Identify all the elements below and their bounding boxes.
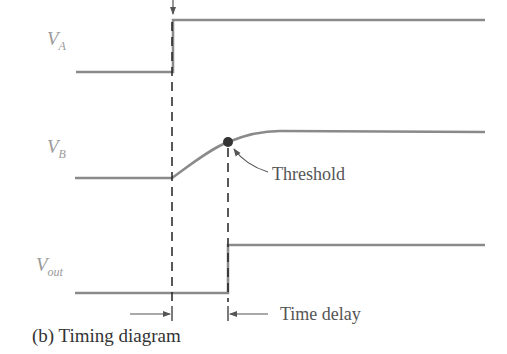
signal-vb-label-sub: B [59, 147, 66, 161]
signal-vout-label: Vout [36, 254, 63, 280]
timing-diagram-graphics [0, 0, 507, 354]
signal-vout-label-sub: out [48, 265, 63, 279]
signal-va-label: VA [47, 28, 66, 54]
signal-va-label-sub: A [59, 39, 66, 53]
signal-vb-label-main: V [47, 136, 59, 157]
signal-va-label-main: V [47, 28, 59, 49]
threshold-label: Threshold [272, 164, 345, 185]
signal-va-waveform [76, 20, 485, 72]
threshold-pointer-arrow [234, 149, 268, 172]
signal-vout-label-main: V [36, 254, 48, 275]
time-delay-label: Time delay [280, 304, 361, 325]
signal-vb-label: VB [47, 136, 66, 162]
figure-caption: (b) Timing diagram [32, 325, 181, 347]
timing-diagram: VA VB Vout Threshold Time delay (b) Timi… [0, 0, 507, 354]
signal-vout-waveform [75, 245, 485, 293]
threshold-dot [223, 137, 233, 147]
